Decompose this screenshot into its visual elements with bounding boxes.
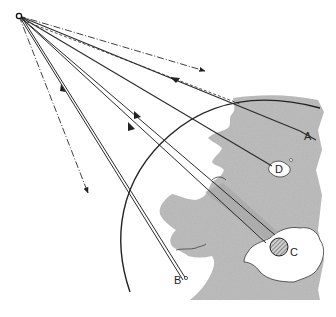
return-arrows	[60, 77, 180, 131]
ray-to-b-1	[19, 16, 183, 280]
ray-to-a-dashed	[22, 20, 240, 104]
arrowhead-ray-c	[128, 122, 135, 131]
islet	[290, 159, 293, 162]
ray-to-a	[19, 16, 300, 131]
endpoint-b	[184, 276, 187, 279]
ray-to-d	[19, 16, 272, 166]
label-b: B	[174, 274, 181, 286]
target-c	[270, 238, 288, 256]
label-c: C	[290, 246, 298, 258]
source-point	[16, 13, 21, 18]
ray-to-b-2	[21, 16, 186, 279]
ray-dashdot-upper	[19, 16, 205, 71]
land-mass	[160, 95, 324, 300]
label-a: A	[304, 130, 312, 142]
arrowhead-ray-d	[134, 111, 141, 119]
ray-diagram: A B C D	[0, 0, 336, 317]
label-d: D	[275, 163, 283, 175]
arrowhead-ray-b	[60, 84, 66, 92]
ray-dashdot-lower	[19, 16, 88, 193]
